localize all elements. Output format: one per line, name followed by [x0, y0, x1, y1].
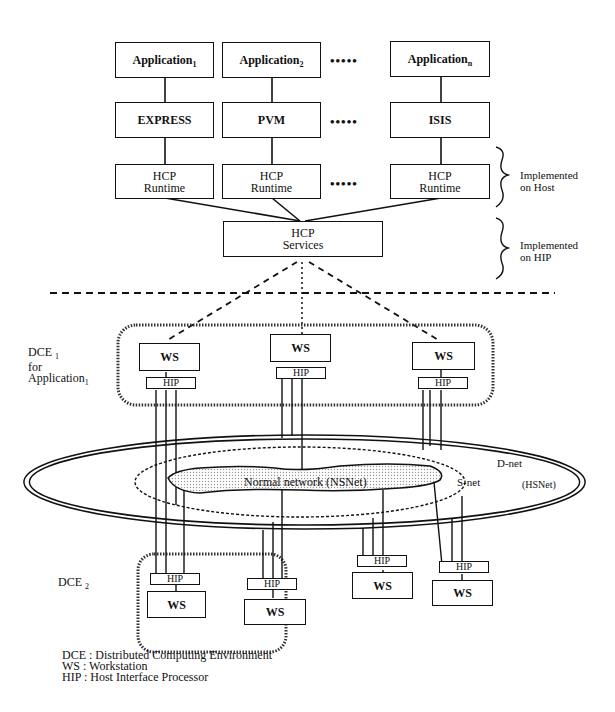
dce1-label: DCE 1 for Application1 [28, 347, 89, 389]
application-2-box: Application2 [222, 42, 321, 78]
hip-label: HIP [435, 377, 451, 389]
ws-label: WS [160, 351, 179, 363]
ws-label: WS [266, 606, 285, 618]
ellipsis-applications: ••••• [330, 55, 358, 67]
runtime-line2: Runtime [251, 182, 292, 194]
ws-dce1-middle: WS [270, 334, 331, 362]
hip-dce1-right: HIP [418, 377, 468, 389]
ws-label: WS [453, 587, 472, 599]
ws-standalone-2: WS [432, 580, 493, 606]
runtime-line1: HCP [428, 170, 451, 182]
dce1-app-subscript: 1 [85, 379, 89, 388]
brace-hip-line2: on HIP [520, 251, 578, 263]
brace-host-label: Implemented on Host [520, 169, 578, 193]
isis-box: ISIS [390, 102, 490, 138]
hip-dce2-left: HIP [150, 573, 200, 585]
nsnet-label: Normal network (NSNet) [244, 476, 367, 488]
runtime-line2: Runtime [144, 182, 185, 194]
services-line2: Services [283, 239, 324, 251]
hip-label: HIP [163, 377, 179, 389]
brace-host-line2: on Host [520, 181, 578, 193]
application-subscript: n [468, 59, 472, 68]
hip-dce1-middle: HIP [276, 367, 326, 379]
isis-label: ISIS [429, 114, 452, 126]
application-label: Application [132, 53, 192, 67]
ws-dce1-left: WS [139, 343, 200, 371]
hip-label: HIP [374, 555, 390, 567]
dnet-label: D-net [497, 457, 522, 469]
brace-host-line1: Implemented [520, 169, 578, 181]
ws-dce2-left: WS [147, 591, 206, 618]
dce1-application: Application [28, 371, 85, 385]
dce1-subscript: 1 [55, 352, 59, 361]
hip-label: HIP [264, 578, 280, 590]
ws-label: WS [291, 342, 310, 354]
hcp-services-box: HCPServices [223, 221, 383, 257]
ws-label: WS [167, 599, 186, 611]
application-1-box: Application1 [115, 42, 214, 78]
ws-dce1-right: WS [412, 342, 475, 370]
ellipsis-middleware: ••••• [330, 116, 358, 128]
brace-hip-label: Implemented on HIP [520, 239, 578, 263]
ws-dce2-right: WS [244, 599, 306, 625]
ws-label: WS [373, 580, 392, 592]
application-subscript: 1 [193, 60, 197, 69]
brace-hip-line1: Implemented [520, 239, 578, 251]
hip-standalone-1: HIP [357, 555, 407, 567]
hcp-runtime-1-box: HCPRuntime [115, 164, 214, 199]
legend-hip: HIP : Host Interface Processor [62, 672, 208, 683]
application-label: Application [239, 53, 299, 67]
hip-label: HIP [456, 561, 472, 573]
pvm-label: PVM [258, 114, 285, 126]
runtime-line2: Runtime [419, 182, 460, 194]
dce1-title: DCE [28, 345, 52, 359]
express-box: EXPRESS [115, 102, 214, 138]
ws-label: WS [434, 350, 453, 362]
runtime-line1: HCP [260, 170, 283, 182]
runtime-line1: HCP [153, 170, 176, 182]
dce2-subscript: 2 [85, 582, 89, 591]
pvm-box: PVM [222, 102, 321, 138]
application-subscript: 2 [300, 60, 304, 69]
hcp-runtime-2-box: HCPRuntime [222, 164, 321, 199]
application-n-box: Applicationn [390, 41, 490, 77]
snet-label: S-net [457, 476, 480, 488]
application-label: Application [408, 52, 468, 66]
hip-standalone-2: HIP [439, 561, 489, 573]
hip-label: HIP [167, 573, 183, 585]
ws-standalone-1: WS [352, 572, 413, 599]
hip-dce1-left: HIP [146, 377, 196, 389]
dce2-label: DCE 2 [58, 576, 89, 593]
hip-dce2-right: HIP [247, 578, 297, 590]
express-label: EXPRESS [137, 114, 191, 126]
hsnet-label: (HSNet) [522, 479, 556, 491]
hcp-runtime-n-box: HCPRuntime [390, 164, 490, 199]
ellipsis-runtimes: ••••• [330, 178, 358, 190]
dce2-title: DCE [58, 575, 82, 589]
hip-label: HIP [293, 367, 309, 379]
